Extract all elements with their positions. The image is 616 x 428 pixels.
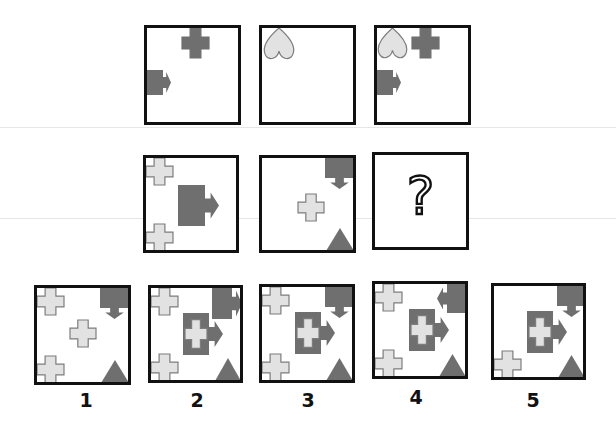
panel-figure [377, 28, 468, 122]
dark-block-arrow-right-shape [147, 70, 171, 95]
answer-option-label-3[interactable]: 3 [293, 389, 323, 411]
dark-block-arrow-down-shape [325, 287, 354, 318]
answer-option-label-1[interactable]: 1 [71, 389, 101, 411]
dark-triangle-shape [326, 228, 354, 251]
inverted-heart-shape [264, 28, 293, 59]
dark-triangle-shape [558, 355, 585, 378]
answer-option-2[interactable] [148, 285, 243, 383]
panel-figure [494, 286, 583, 377]
dark-triangle-shape [101, 360, 129, 383]
light-cross-shape [146, 158, 173, 185]
answer-option-3[interactable] [259, 284, 355, 383]
dark-block-arrow-right-shape [377, 70, 401, 95]
panel-figure [375, 284, 465, 376]
dark-block-arrow-down-shape [100, 288, 129, 319]
light-cross-shape [37, 356, 64, 383]
matrix-panel-row1-col2 [259, 25, 356, 125]
question-mark-icon: ? [407, 166, 435, 226]
panel-figure [262, 287, 352, 380]
dark-block-arrow-right-shape [178, 185, 219, 226]
dark-cross-shape [412, 28, 439, 58]
faint-divider-line-top [0, 127, 616, 128]
dark-cross-shape [182, 28, 209, 58]
answer-option-label-5[interactable]: 5 [518, 389, 548, 411]
dark-block-arrow-down-shape [557, 286, 586, 317]
answer-option-5[interactable] [491, 283, 586, 380]
dark-triangle-shape [326, 358, 353, 381]
dark-block-arrow-right-shape [295, 312, 335, 354]
dark-triangle-shape [439, 354, 466, 377]
light-cross-shape [262, 287, 289, 314]
matrix-panel-row1-col3 [374, 25, 471, 125]
light-cross-shape [151, 288, 178, 315]
answer-option-label-4[interactable]: 4 [401, 386, 431, 408]
dark-block-arrow-right-shape [183, 313, 223, 355]
light-cross-shape [375, 284, 402, 311]
missing-panel-question: ? [372, 152, 469, 250]
dark-block-arrow-left-shape [437, 284, 466, 313]
answer-option-1[interactable] [34, 285, 131, 385]
panel-figure [262, 28, 353, 122]
answer-option-label-2[interactable]: 2 [182, 389, 212, 411]
light-cross-shape [494, 351, 521, 378]
light-cross-shape [375, 350, 402, 377]
panel-figure [146, 158, 236, 250]
light-cross-shape [70, 320, 96, 347]
light-cross-shape [146, 224, 173, 251]
answer-option-4[interactable] [372, 281, 468, 379]
dark-block-arrow-right-shape [409, 309, 449, 351]
matrix-panel-row1-col1 [144, 25, 241, 125]
dark-block-arrow-right-shape [212, 288, 242, 319]
light-cross-shape [262, 354, 289, 381]
light-cross-shape [151, 354, 178, 381]
matrix-panel-row2-col2 [259, 155, 356, 253]
panel-figure: ? [375, 155, 466, 247]
inverted-heart-shape [378, 28, 407, 58]
light-cross-shape [298, 194, 324, 221]
dark-block-arrow-down-shape [325, 158, 354, 189]
panel-figure [37, 288, 128, 382]
panel-figure [262, 158, 353, 250]
panel-figure [151, 288, 240, 380]
panel-figure [147, 28, 238, 122]
dark-triangle-shape [215, 358, 241, 381]
dark-block-arrow-right-shape [527, 311, 567, 353]
light-cross-shape [37, 288, 64, 315]
matrix-panel-row2-col1 [143, 155, 239, 253]
